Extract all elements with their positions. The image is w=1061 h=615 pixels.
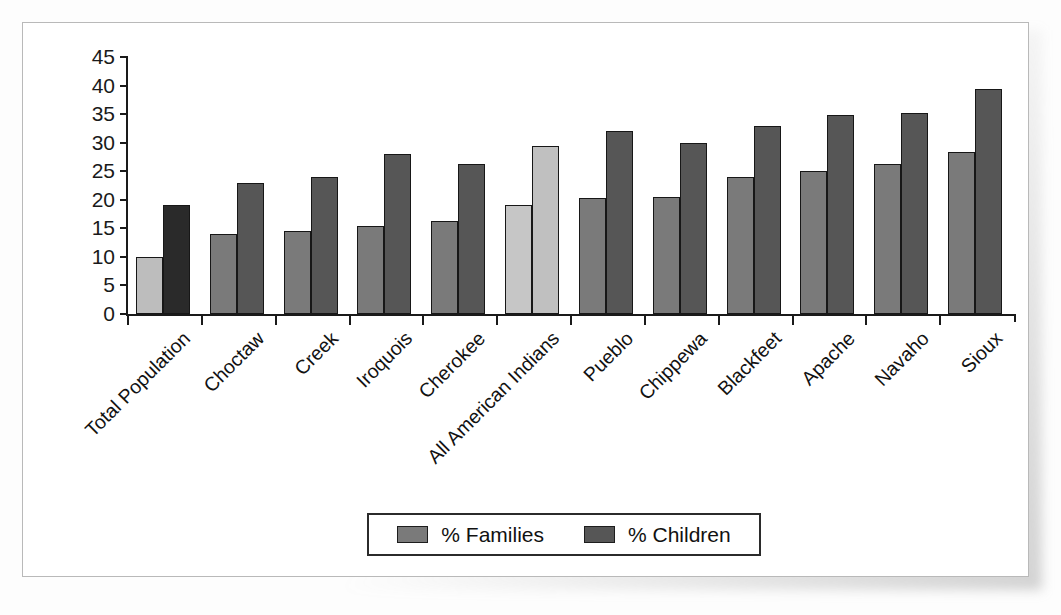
bar <box>975 89 1002 314</box>
y-axis-tick <box>120 313 127 315</box>
bar <box>579 198 606 314</box>
legend-swatch <box>397 526 428 543</box>
bar <box>727 177 754 314</box>
bar <box>800 171 827 314</box>
y-axis-tick <box>120 227 127 229</box>
x-axis-category-label: Sioux <box>956 327 1007 378</box>
y-axis-tick-label: 30 <box>75 132 115 153</box>
chart-legend: % Families% Children <box>367 513 761 556</box>
x-axis-category-label: Apache <box>797 327 860 390</box>
bar <box>431 221 458 314</box>
y-axis-tick <box>120 56 127 58</box>
y-axis-tick-label-wrap: 30 <box>71 143 115 144</box>
x-axis-tick <box>275 316 277 325</box>
x-axis-category-label: Cherokee <box>414 327 490 403</box>
y-axis-tick <box>120 142 127 144</box>
x-axis-category-label: Blackfeet <box>713 327 786 400</box>
bar <box>311 177 338 314</box>
bar <box>237 183 264 314</box>
x-axis-tick <box>201 316 203 325</box>
y-axis-tick-label-wrap: 15 <box>71 228 115 229</box>
legend-label: % Children <box>628 524 731 545</box>
y-axis-tick-label-wrap: 5 <box>71 285 115 286</box>
y-axis-tick-label-wrap: 25 <box>71 171 115 172</box>
scanned-page-background: 051015202530354045 Total PopulationChoct… <box>0 0 1061 615</box>
legend-entry: % Families <box>397 524 544 545</box>
bar <box>163 205 190 314</box>
chart-figure-frame: 051015202530354045 Total PopulationChoct… <box>22 22 1029 577</box>
y-axis-tick-label: 15 <box>75 217 115 238</box>
bar <box>680 143 707 314</box>
bar <box>948 152 975 314</box>
y-axis-tick-label-wrap: 20 <box>71 200 115 201</box>
bar <box>384 154 411 314</box>
x-axis-category-label: Pueblo <box>579 327 638 386</box>
y-axis-tick-label-wrap: 45 <box>71 57 115 58</box>
y-axis-tick <box>120 199 127 201</box>
x-axis-tick <box>718 316 720 325</box>
y-axis-tick-label: 5 <box>75 274 115 295</box>
x-axis-category-label: Choctaw <box>199 327 269 397</box>
bar <box>653 197 680 314</box>
y-axis-tick-label-wrap: 0 <box>71 314 115 315</box>
bar <box>901 113 928 314</box>
y-axis-line <box>126 56 128 315</box>
x-axis-category-label: Total Population <box>81 327 195 441</box>
plot-area: 051015202530354045 Total PopulationChoct… <box>23 23 1030 578</box>
bar <box>827 115 854 314</box>
y-axis-tick-label: 40 <box>75 75 115 96</box>
x-axis-category-label: Navaho <box>870 327 934 391</box>
bar <box>532 146 559 314</box>
x-axis-tick <box>349 316 351 325</box>
y-axis-tick <box>120 113 127 115</box>
legend-entry: % Children <box>584 524 731 545</box>
x-axis-tick <box>865 316 867 325</box>
y-axis-tick <box>120 170 127 172</box>
x-axis-tick <box>127 316 129 325</box>
bar <box>136 257 163 314</box>
x-axis-category-label: Chippewa <box>634 327 712 405</box>
y-axis-tick <box>120 256 127 258</box>
x-axis-tick <box>644 316 646 325</box>
x-axis-tick <box>570 316 572 325</box>
y-axis-tick-label: 0 <box>75 303 115 324</box>
bar <box>606 131 633 314</box>
x-axis-right-cap <box>1014 314 1016 322</box>
bar <box>210 234 237 314</box>
x-axis-tick <box>939 316 941 325</box>
y-axis-tick-label: 10 <box>75 246 115 267</box>
y-axis-tick-label: 45 <box>75 46 115 67</box>
y-axis-tick-label: 25 <box>75 160 115 181</box>
x-axis-tick <box>422 316 424 325</box>
y-axis-tick-label: 35 <box>75 103 115 124</box>
y-axis-tick-label: 20 <box>75 189 115 210</box>
bar <box>458 164 485 314</box>
y-axis-tick <box>120 85 127 87</box>
bar <box>284 231 311 314</box>
y-axis-tick <box>120 284 127 286</box>
x-axis-category-label: Iroquois <box>352 327 417 392</box>
x-axis-tick <box>792 316 794 325</box>
y-axis-tick-label-wrap: 10 <box>71 257 115 258</box>
legend-swatch <box>584 526 615 543</box>
x-axis-category-label: Creek <box>290 327 343 380</box>
bar <box>754 126 781 314</box>
bar <box>505 205 532 314</box>
x-axis-tick <box>496 316 498 325</box>
x-axis-category-label: All American Indians <box>423 327 564 468</box>
legend-label: % Families <box>441 524 544 545</box>
bar <box>874 164 901 314</box>
y-axis-tick-label-wrap: 35 <box>71 114 115 115</box>
y-axis-tick-label-wrap: 40 <box>71 86 115 87</box>
bar <box>357 226 384 314</box>
